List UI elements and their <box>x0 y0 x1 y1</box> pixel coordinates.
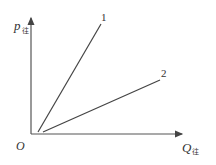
curve-2-label: 2 <box>161 67 167 79</box>
curve-1-label: 1 <box>101 11 107 23</box>
y-axis-symbol: p <box>13 18 21 33</box>
x-axis-symbol: Q <box>182 140 192 155</box>
curve-1 <box>38 24 101 132</box>
y-axis-subscript: 往 <box>22 26 29 35</box>
origin-label: O <box>16 139 25 153</box>
curve-2 <box>43 80 160 132</box>
x-axis-subscript: 往 <box>192 147 199 156</box>
diagram-canvas: 1 2 p 往 Q 往 O <box>0 0 216 165</box>
